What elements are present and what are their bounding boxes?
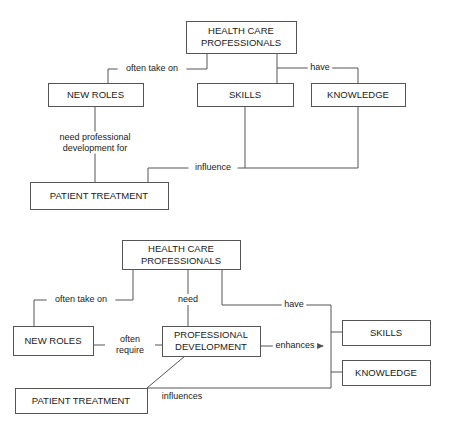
- edge-skills-knowledge-trunk: [331, 332, 342, 372]
- edge-influence: [148, 106, 358, 182]
- node-knowledge: KNOWLEDGE: [312, 84, 406, 107]
- edge-label-enhances: enhances: [275, 340, 315, 350]
- top-diagram-edge-labels: often take onhaveneed professionaldevelo…: [51, 62, 332, 173]
- edge-label-have: have: [310, 62, 330, 72]
- edge-label-often-take-on: often take on: [55, 294, 107, 304]
- node-label-hcp: HEALTH CAREPROFESSIONALS: [141, 242, 221, 265]
- node-label-patient_treatment: PATIENT TREATMENT: [32, 394, 131, 405]
- node-label-hcp: HEALTH CAREPROFESSIONALS: [201, 25, 281, 48]
- edge-pd-to-knowledge-return: [147, 372, 331, 388]
- node-label-knowledge: KNOWLEDGE: [327, 88, 389, 99]
- top-diagram-nodes: HEALTH CAREPROFESSIONALSNEW ROLESSKILLSK…: [31, 22, 406, 210]
- node-new_roles: NEW ROLES: [49, 84, 144, 107]
- node-hcp: HEALTH CAREPROFESSIONALS: [123, 241, 241, 270]
- edge-influences: [147, 356, 185, 388]
- edge-label-often-take-on: often take on: [126, 63, 178, 73]
- node-new_roles: NEW ROLES: [14, 327, 94, 356]
- node-knowledge: KNOWLEDGE: [343, 361, 431, 386]
- node-label-skills: SKILLS: [229, 88, 261, 99]
- edge-label-have: have: [284, 299, 304, 309]
- node-hcp: HEALTH CAREPROFESSIONALS: [187, 22, 297, 54]
- edge-label-need-professional-development-for: need professionaldevelopment for: [59, 132, 130, 153]
- node-label-professional_development: PROFESSIONALDEVELOPMENT: [174, 329, 248, 352]
- edge-label-need: need: [178, 294, 198, 304]
- edge-label-influences: influences: [162, 391, 203, 401]
- edge-label-often-require: oftenrequire: [116, 334, 144, 355]
- node-label-knowledge: KNOWLEDGE: [355, 366, 417, 377]
- node-label-new_roles: NEW ROLES: [24, 334, 81, 345]
- node-professional_development: PROFESSIONALDEVELOPMENT: [163, 327, 261, 357]
- node-label-skills: SKILLS: [370, 326, 402, 337]
- edge-label-influence: influence: [195, 162, 231, 172]
- node-patient_treatment: PATIENT TREATMENT: [31, 183, 169, 210]
- node-label-new_roles: NEW ROLES: [67, 88, 124, 99]
- edge-have: [222, 269, 331, 332]
- node-patient_treatment: PATIENT TREATMENT: [16, 389, 148, 414]
- concept-map-svg: HEALTH CAREPROFESSIONALSNEW ROLESSKILLSK…: [0, 0, 452, 439]
- node-skills: SKILLS: [198, 84, 294, 107]
- node-skills: SKILLS: [343, 321, 431, 346]
- concept-map-figure: HEALTH CAREPROFESSIONALSNEW ROLESSKILLSK…: [0, 0, 452, 439]
- node-label-patient_treatment: PATIENT TREATMENT: [50, 189, 149, 200]
